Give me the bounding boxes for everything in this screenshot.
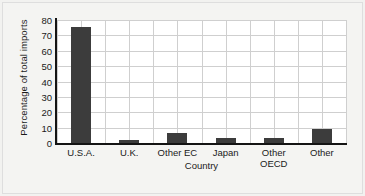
x-axis-title: Country — [57, 160, 346, 171]
y-tick-label: 30 — [32, 91, 52, 102]
vertical-gridline — [177, 20, 178, 143]
chart-figure: Percentage of total imports 010203040506… — [0, 0, 365, 196]
y-tick-label: 80 — [32, 15, 52, 26]
y-tick-label: 0 — [32, 138, 52, 149]
x-axis-line — [55, 143, 347, 145]
y-tick-label: 40 — [32, 76, 52, 87]
vertical-gridline — [298, 20, 299, 143]
vertical-gridline — [105, 20, 106, 143]
vertical-gridline — [57, 20, 58, 143]
y-axis-tick-labels: 01020304050607080 — [32, 20, 52, 143]
bar — [71, 27, 91, 143]
y-tick-label: 50 — [32, 61, 52, 72]
y-tick-label: 70 — [32, 30, 52, 41]
vertical-gridline — [129, 20, 130, 143]
x-tick-label: Japan — [213, 147, 239, 158]
bar — [167, 133, 187, 143]
vertical-gridline — [202, 20, 203, 143]
x-tick-label: U.K. — [120, 147, 138, 158]
plot-area — [57, 20, 346, 143]
vertical-gridline — [346, 20, 347, 143]
vertical-gridline — [250, 20, 251, 143]
y-axis-line — [55, 18, 57, 145]
vertical-gridline — [322, 20, 323, 143]
x-tick-label: Other EC — [158, 147, 198, 158]
x-tick-label: U.S.A. — [67, 147, 94, 158]
y-axis-title: Percentage of total imports — [18, 8, 29, 148]
vertical-gridline — [226, 20, 227, 143]
y-tick-label: 60 — [32, 45, 52, 56]
y-tick-label: 10 — [32, 122, 52, 133]
bar — [312, 129, 332, 143]
y-tick-label: 20 — [32, 107, 52, 118]
vertical-gridline — [274, 20, 275, 143]
vertical-gridline — [153, 20, 154, 143]
x-tick-label: Other — [310, 147, 334, 158]
